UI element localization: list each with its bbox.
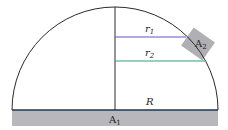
semicircle-diagram: r1 r2 R A1 A2: [0, 0, 228, 130]
label-r1: r1: [145, 23, 154, 36]
label-R: R: [145, 96, 154, 107]
label-r2: r2: [145, 47, 155, 60]
